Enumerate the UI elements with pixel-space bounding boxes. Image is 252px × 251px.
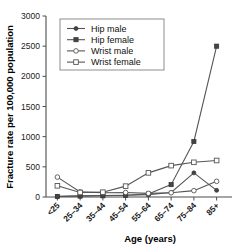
- y-axis-tick-label: 0: [35, 192, 40, 202]
- y-axis-tick-label: 1000: [21, 132, 40, 142]
- y-axis-tick-label: 3000: [21, 11, 40, 21]
- data-point: [215, 188, 219, 192]
- data-point: [169, 163, 174, 168]
- legend-label: Wrist male: [91, 46, 133, 56]
- data-point: [192, 188, 197, 193]
- y-axis-tick-label: 500: [26, 162, 40, 172]
- data-point: [215, 44, 219, 48]
- legend-marker-open-circle: [74, 49, 79, 54]
- data-point: [101, 190, 106, 195]
- x-axis-tick-label: 85+: [204, 200, 221, 217]
- figure-container: 050010001500200025003000 <2525–3435–4445…: [0, 0, 252, 251]
- legend-label: Hip female: [91, 35, 134, 45]
- x-axis-title: Age (years): [124, 233, 176, 244]
- series-line: [57, 160, 216, 192]
- y-axis-tick-label: 2500: [21, 41, 40, 51]
- data-point: [214, 179, 219, 184]
- x-axis-tick-label: 45–54: [107, 200, 131, 224]
- data-point: [192, 160, 197, 165]
- x-axis-tick-label: 25–34: [61, 200, 85, 224]
- y-axis-title: Fracture rate per 100,000 population: [4, 25, 15, 189]
- data-point: [55, 184, 60, 189]
- data-point: [192, 139, 196, 143]
- x-axis-tick-label: 55–64: [129, 200, 153, 224]
- legend-marker-open-square: [74, 60, 79, 65]
- data-point: [146, 191, 151, 196]
- data-point: [78, 190, 83, 195]
- data-point: [55, 175, 60, 180]
- y-axis: 050010001500200025003000: [21, 11, 46, 202]
- legend-marker-filled-circle: [74, 27, 78, 31]
- legend-marker-filled-square: [74, 38, 78, 42]
- data-point: [146, 171, 151, 176]
- chart-legend: Hip maleHip femaleWrist maleWrist female: [60, 19, 164, 70]
- y-axis-tick-label: 1500: [21, 102, 40, 112]
- data-point: [55, 194, 59, 198]
- y-axis-tick-label: 2000: [21, 71, 40, 81]
- x-axis-tick-label: <25: [45, 200, 62, 217]
- line-chart: 050010001500200025003000 <2525–3435–4445…: [0, 0, 252, 251]
- x-axis-tick-label: 75–84: [175, 200, 199, 224]
- data-point: [169, 183, 173, 187]
- data-point: [123, 190, 128, 195]
- x-axis-tick-label: 65–74: [152, 200, 176, 224]
- data-point: [169, 190, 174, 195]
- data-point: [123, 184, 128, 189]
- x-axis: <2525–3435–4445–5455–6465–7475–8485+: [45, 197, 232, 224]
- data-point: [192, 171, 196, 175]
- x-axis-tick-label: 35–44: [84, 200, 108, 224]
- data-point: [214, 158, 219, 163]
- legend-label: Hip male: [91, 24, 127, 34]
- legend-label: Wrist female: [91, 57, 141, 67]
